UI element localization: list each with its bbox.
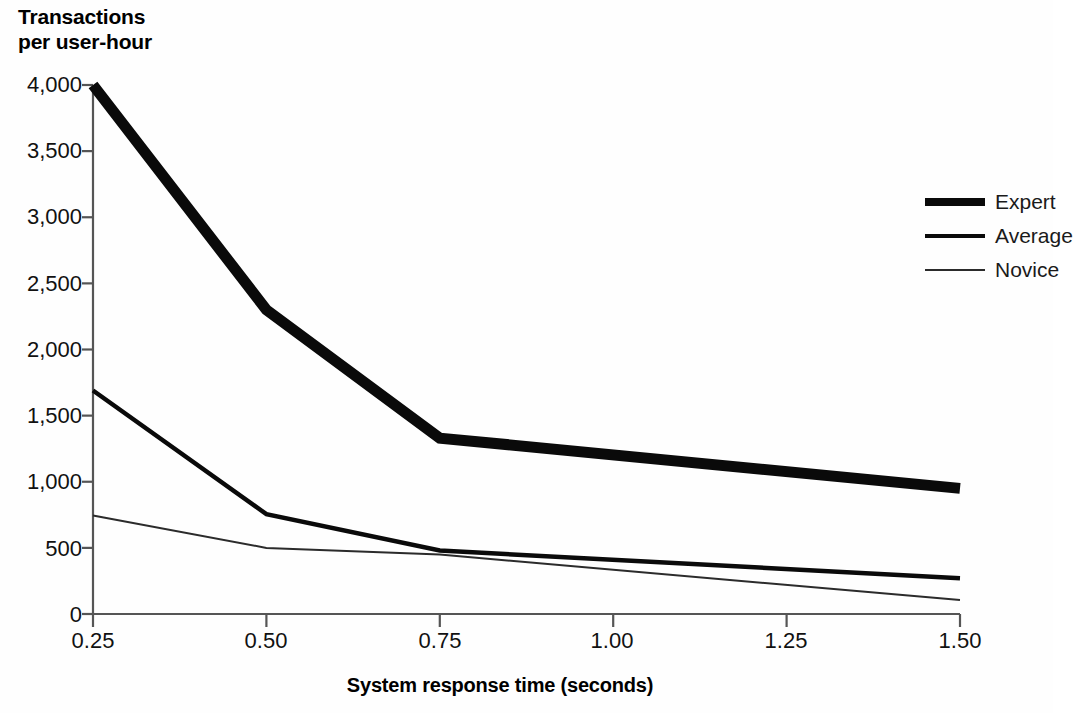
series-group bbox=[93, 85, 960, 600]
series-line-expert bbox=[93, 85, 960, 488]
series-line-average bbox=[93, 391, 960, 579]
axes-group bbox=[82, 85, 960, 627]
series-line-novice bbox=[93, 516, 960, 601]
